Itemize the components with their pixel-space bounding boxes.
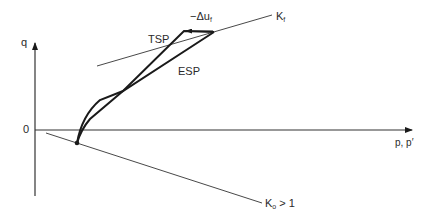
q-axis-label: q <box>21 37 27 48</box>
pore-pressure-label: −Δuf <box>190 11 212 23</box>
pore-pressure-label-sub: f <box>210 16 212 23</box>
diagram-graphics <box>0 0 439 221</box>
tsp-label: TSP <box>148 34 169 45</box>
kf-line <box>97 15 272 66</box>
stress-path-diagram: q 0 p, p′ TSP ESP −Δuf Kf Ko > 1 <box>0 0 439 221</box>
tsp-path <box>77 31 214 143</box>
k0-label: Ko > 1 <box>265 198 295 210</box>
p-axis-label: p, p′ <box>395 138 414 148</box>
k0-label-rest: > 1 <box>276 197 295 209</box>
kf-label-sub: f <box>283 16 285 23</box>
esp-path <box>77 32 214 143</box>
start-point <box>75 141 80 146</box>
esp-label: ESP <box>178 66 200 77</box>
origin-label: 0 <box>23 124 29 135</box>
kf-label: Kf <box>276 11 285 23</box>
pore-pressure-label-main: −Δu <box>190 10 210 22</box>
